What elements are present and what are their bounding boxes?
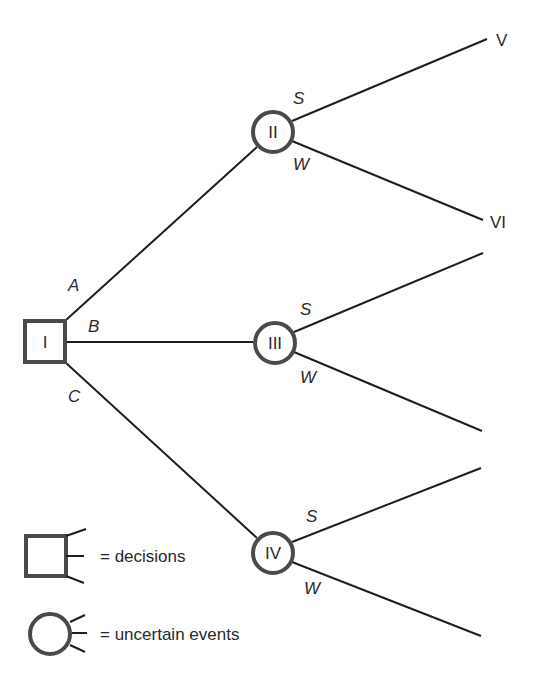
branch-iv-w-label: W — [304, 579, 322, 598]
edge-iv-w — [292, 562, 481, 636]
legend-circle-tick — [70, 645, 85, 652]
branch-ii-w-label: W — [293, 155, 311, 174]
event-node-iii-label: III — [268, 334, 282, 353]
decision-node-label: I — [43, 333, 48, 352]
edge-iv-s — [292, 468, 481, 542]
edge-c — [66, 363, 257, 538]
legend-uncertain-events-text: = uncertain events — [100, 625, 239, 644]
legend-uncertain-events: = uncertain events — [30, 614, 239, 654]
edge-a — [66, 147, 257, 320]
branch-iv-s-label: S — [306, 507, 318, 526]
legend-circle-icon — [30, 614, 70, 654]
legend-decisions-text: = decisions — [100, 547, 186, 566]
legend-circle-tick — [70, 615, 85, 622]
decision-tree-diagram: I II III IV V VI A B C S W S W S W = dec… — [0, 0, 533, 690]
event-node-ii-label: II — [268, 123, 277, 142]
branch-iii-w-label: W — [300, 368, 318, 387]
legend-square-tick — [66, 576, 84, 583]
branch-iii-s-label: S — [300, 300, 312, 319]
legend-decisions: = decisions — [26, 529, 186, 583]
outcome-vi-label: VI — [490, 213, 506, 232]
branch-c-label: C — [68, 387, 81, 406]
edge-iii-w — [294, 352, 482, 431]
legend-square-tick — [66, 529, 86, 536]
branch-ii-s-label: S — [293, 89, 305, 108]
outcome-v-label: V — [496, 31, 508, 50]
legend-square-icon — [26, 536, 66, 576]
branch-a-label: A — [67, 276, 79, 295]
edge-ii-s — [292, 39, 487, 121]
branch-b-label: B — [88, 317, 99, 336]
edge-ii-w — [292, 141, 483, 220]
edge-iii-s — [294, 253, 483, 332]
event-node-iv-label: IV — [265, 544, 282, 563]
